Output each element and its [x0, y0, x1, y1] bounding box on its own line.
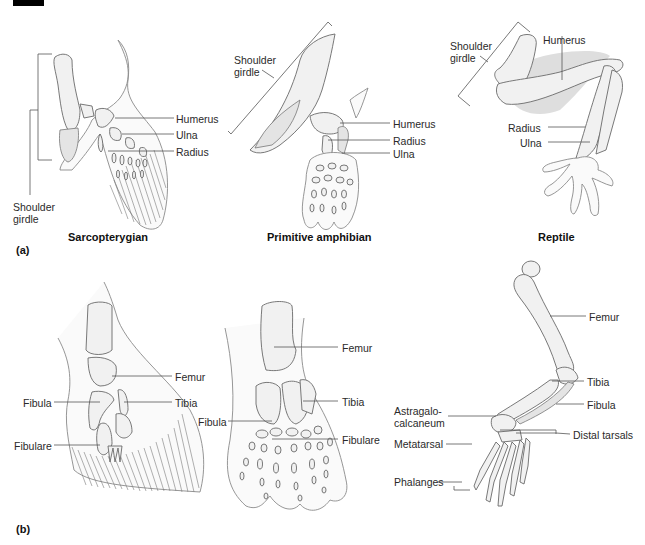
label-sarco-ulna: Ulna: [176, 129, 198, 141]
label-reptile-radius: Radius: [508, 122, 541, 134]
label-amph-shoulder-1: Shoulder: [234, 54, 276, 66]
label-sarco-humerus: Humerus: [176, 113, 219, 125]
label-amph-fibulare: Fibulare: [342, 434, 380, 446]
title-sarcopterygian: Sarcopterygian: [68, 231, 148, 243]
label-amph-tibia: Tibia: [342, 396, 364, 408]
label-amph-femur: Femur: [342, 342, 372, 354]
label-amph-radius: Radius: [393, 135, 426, 147]
label-fin-tibia: Tibia: [175, 397, 197, 409]
label-reptile-fibula: Fibula: [587, 399, 616, 411]
hindlimb-reptile-drawing: [438, 261, 586, 506]
title-primitive-amphibian: Primitive amphibian: [267, 231, 372, 243]
label-reptile-metatarsal: Metatarsal: [394, 438, 443, 450]
anatomy-illustration: [0, 0, 645, 545]
label-reptile-tibia: Tibia: [587, 376, 609, 388]
panel-label-a: (a): [16, 244, 29, 256]
label-reptile-phalanges: Phalanges: [394, 476, 444, 488]
label-amph-ulna: Ulna: [393, 148, 415, 160]
label-sarco-shoulder-1: Shoulder: [13, 201, 55, 213]
label-reptile-astragalo-2: calcaneum: [394, 417, 445, 429]
panel-label-b: (b): [16, 523, 30, 535]
label-reptile-shoulder-1: Shoulder: [450, 40, 492, 52]
label-reptile-astragalo-1: Astragalo-: [394, 405, 442, 417]
label-sarco-radius: Radius: [176, 146, 209, 158]
label-amph-fibula: Fibula: [198, 416, 227, 428]
label-fin-fibula: Fibula: [23, 397, 52, 409]
label-reptile-shoulder-2: girdle: [450, 52, 476, 64]
label-fin-fibulare: Fibulare: [14, 440, 52, 452]
label-reptile-ulna: Ulna: [520, 137, 542, 149]
label-reptile-distal-tarsals: Distal tarsals: [573, 429, 633, 441]
label-amph-shoulder-2: girdle: [234, 66, 260, 78]
title-reptile: Reptile: [538, 231, 575, 243]
label-reptile-femur: Femur: [589, 311, 619, 323]
hindlimb-fin-drawing: [54, 282, 204, 492]
hindlimb-amphibian-drawing: [225, 302, 347, 511]
label-fin-femur: Femur: [175, 371, 205, 383]
label-amph-humerus: Humerus: [393, 118, 436, 130]
label-reptile-humerus: Humerus: [543, 34, 586, 46]
label-sarco-shoulder-2: girdle: [13, 213, 39, 225]
